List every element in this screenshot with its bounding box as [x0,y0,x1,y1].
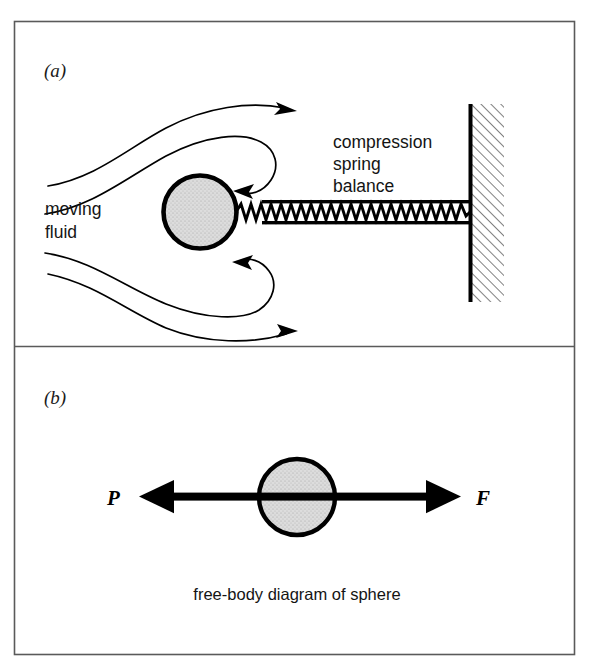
fixed-wall [469,104,505,302]
sphere [164,176,237,249]
free-body-caption: free-body diagram of sphere [193,585,400,603]
moving-fluid-line2: fluid [45,222,77,242]
moving-fluid-line1: moving [45,199,101,219]
wall-hatching [472,104,504,302]
spring-rail-top [262,200,470,203]
figure-root: (a) [0,0,594,669]
spring-label-line2: spring [333,154,381,174]
panel-b-letter: (b) [44,387,66,409]
force-arrow-through-sphere [255,493,339,501]
force-label-p: P [106,486,120,510]
panel-a-letter: (a) [44,60,66,82]
force-label-f: F [475,486,490,510]
wall-face [469,104,473,302]
spring-label-line1: compression [333,132,432,152]
physics-diagram: (a) [0,0,594,669]
spring-label-line3: balance [333,176,394,196]
